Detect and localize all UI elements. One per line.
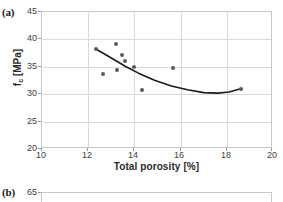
gridline-vertical (134, 12, 135, 147)
x-tick-mark (180, 148, 181, 151)
data-point (239, 87, 243, 91)
gridline-vertical (227, 12, 228, 147)
gridline-horizontal (42, 122, 271, 123)
x-tick-label-12: 12 (75, 151, 99, 160)
panel-b: (b) 65 (0, 176, 283, 202)
trend-curve (42, 12, 273, 149)
data-point (171, 66, 175, 70)
gridline-horizontal (42, 94, 271, 95)
figure-container: (a) 45 40 35 30 25 20 10 12 14 16 18 20 (0, 0, 283, 202)
plot-area-b (41, 192, 272, 202)
data-point (132, 65, 136, 69)
panel-a: (a) 45 40 35 30 25 20 10 12 14 16 18 20 (0, 0, 283, 176)
y-axis-title-unit: [MPa] (12, 49, 23, 79)
panel-b-label: (b) (2, 186, 15, 198)
x-tick-mark (271, 148, 272, 151)
x-tick-label-10: 10 (29, 151, 53, 160)
x-tick-mark (41, 148, 42, 151)
y-axis-title-base: f (12, 83, 23, 86)
gridline-vertical (88, 12, 89, 147)
data-point (115, 68, 119, 72)
data-point (114, 42, 118, 46)
data-point (120, 53, 124, 57)
y-axis-title-subscript: c (17, 79, 24, 83)
x-axis-title: Total porosity [%] (41, 161, 272, 172)
gridline-horizontal (42, 39, 271, 40)
y-tick-label-65: 65 (17, 188, 37, 197)
x-tick-mark (226, 148, 227, 151)
x-tick-mark (133, 148, 134, 151)
gridline-horizontal (42, 67, 271, 68)
x-tick-mark (87, 148, 88, 151)
x-tick-label-18: 18 (214, 151, 238, 160)
gridline-vertical (181, 12, 182, 147)
x-tick-label-16: 16 (167, 151, 191, 160)
data-point (94, 47, 98, 51)
data-point (140, 88, 144, 92)
x-tick-label-20: 20 (260, 151, 283, 160)
data-point (123, 59, 127, 63)
y-axis-title: fc [MPa] (12, 3, 23, 133)
plot-area-a (41, 11, 272, 148)
x-tick-label-14: 14 (121, 151, 145, 160)
data-point (101, 72, 105, 76)
